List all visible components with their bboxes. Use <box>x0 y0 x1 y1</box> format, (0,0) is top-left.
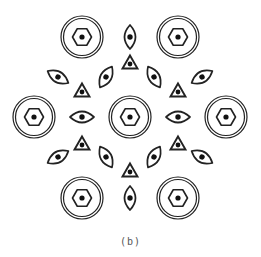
figure-caption: (b) <box>0 236 261 247</box>
center-dot <box>175 195 180 200</box>
center-dot <box>79 195 84 200</box>
eye-pupil <box>54 73 61 80</box>
triangle-dot <box>176 143 181 148</box>
center-dot <box>31 114 36 119</box>
triangle-dot <box>128 170 133 175</box>
eye-pupil <box>102 153 109 160</box>
eye-icon <box>45 146 71 168</box>
triangle-icon <box>123 164 138 177</box>
hex-ring-symbol-top-left <box>61 16 103 58</box>
eye-pupil <box>54 153 61 160</box>
eye-pupil <box>198 73 205 80</box>
center-dot <box>223 114 228 119</box>
hex-ring-symbol-right <box>205 96 247 138</box>
triangle-icon <box>75 137 90 150</box>
eye-icon <box>95 144 117 170</box>
eye-icon <box>143 144 165 170</box>
eye-pupil <box>150 73 157 80</box>
hex-ring-symbol-center <box>109 96 151 138</box>
triangle-icon <box>123 56 138 69</box>
eye-icon <box>125 25 136 49</box>
eye-pupil <box>127 34 132 39</box>
eye-icon <box>166 112 190 123</box>
triangle-icon <box>171 84 186 97</box>
symbol-lattice <box>0 0 261 257</box>
eye-pupil <box>150 153 157 160</box>
eye-pupil <box>79 114 84 119</box>
eye-icon <box>70 112 94 123</box>
eye-icon <box>189 146 215 168</box>
eye-pupil <box>198 153 205 160</box>
triangle-dot <box>128 62 133 67</box>
center-dot <box>127 114 132 119</box>
eye-icon <box>189 66 215 88</box>
eye-pupil <box>175 114 180 119</box>
triangle-dot <box>80 90 85 95</box>
eye-icon <box>45 66 71 88</box>
triangle-dot <box>80 143 85 148</box>
triangle-dot <box>176 90 181 95</box>
eye-icon <box>95 64 117 90</box>
triangle-icon <box>171 137 186 150</box>
eye-icon <box>143 64 165 90</box>
pattern-diagram: (b) <box>0 0 261 257</box>
eye-icon <box>125 186 136 210</box>
triangle-icon <box>75 84 90 97</box>
eye-pupil <box>127 195 132 200</box>
hex-ring-symbol-bottom-left <box>61 177 103 219</box>
center-dot <box>175 34 180 39</box>
center-dot <box>79 34 84 39</box>
hex-ring-symbol-bottom-right <box>157 177 199 219</box>
hex-ring-symbol-top-right <box>157 16 199 58</box>
hex-ring-symbol-left <box>13 96 55 138</box>
eye-pupil <box>102 73 109 80</box>
